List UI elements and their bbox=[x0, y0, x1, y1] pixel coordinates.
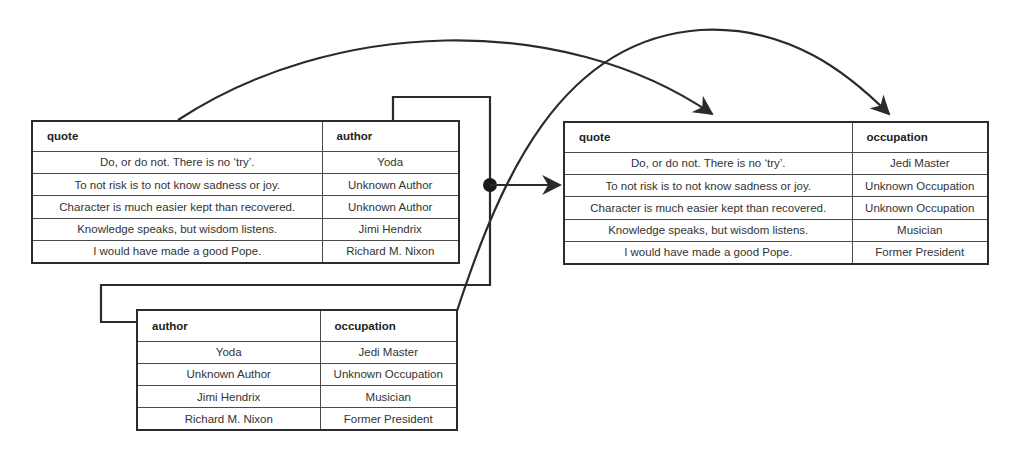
join-dot bbox=[483, 178, 497, 192]
cell: Former President bbox=[320, 408, 456, 429]
header-quote: quote bbox=[33, 122, 322, 151]
cell: Do, or do not. There is no ‘try’. bbox=[33, 151, 322, 173]
cell: Character is much easier kept than recov… bbox=[565, 197, 852, 219]
cell: Richard M. Nixon bbox=[322, 240, 458, 262]
cell: Unknown Occupation bbox=[852, 197, 987, 219]
header-author: author bbox=[138, 311, 320, 341]
cell: Unknown Author bbox=[322, 196, 458, 218]
cell: Character is much easier kept than recov… bbox=[33, 196, 322, 218]
cell: Musician bbox=[852, 219, 987, 241]
cell: Yoda bbox=[322, 151, 458, 173]
cell: Knowledge speaks, but wisdom listens. bbox=[565, 219, 852, 241]
header-quote: quote bbox=[565, 123, 852, 152]
cell: Former President bbox=[852, 241, 987, 263]
authors-occupations-table: author occupation YodaJedi Master Unknow… bbox=[136, 309, 458, 431]
cell: Jedi Master bbox=[852, 152, 987, 174]
header-occupation: occupation bbox=[320, 311, 456, 341]
cell: Knowledge speaks, but wisdom listens. bbox=[33, 218, 322, 240]
quote-arrow bbox=[178, 40, 712, 120]
cell: Do, or do not. There is no ‘try’. bbox=[565, 152, 852, 174]
cell: I would have made a good Pope. bbox=[33, 240, 322, 262]
cell: Yoda bbox=[138, 341, 320, 363]
quotes-authors-table: quote author Do, or do not. There is no … bbox=[31, 120, 460, 264]
quotes-occupations-table: quote occupation Do, or do not. There is… bbox=[563, 121, 989, 265]
cell: Musician bbox=[320, 385, 456, 407]
cell: To not risk is to not know sadness or jo… bbox=[565, 174, 852, 196]
cell: Unknown Occupation bbox=[852, 174, 987, 196]
cell: Unknown Occupation bbox=[320, 363, 456, 385]
cell: Unknown Author bbox=[138, 363, 320, 385]
cell: To not risk is to not know sadness or jo… bbox=[33, 173, 322, 195]
header-author: author bbox=[322, 122, 458, 151]
cell: Jimi Hendrix bbox=[322, 218, 458, 240]
cell: Richard M. Nixon bbox=[138, 408, 320, 429]
cell: Jedi Master bbox=[320, 341, 456, 363]
cell: Jimi Hendrix bbox=[138, 385, 320, 407]
cell: I would have made a good Pope. bbox=[565, 241, 852, 263]
cell: Unknown Author bbox=[322, 173, 458, 195]
header-occupation: occupation bbox=[852, 123, 987, 152]
